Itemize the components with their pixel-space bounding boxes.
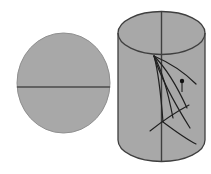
cylinder-group xyxy=(118,12,205,162)
geometry-figure-svg xyxy=(0,0,211,174)
cross-section-disk-group xyxy=(17,33,110,133)
figure-root xyxy=(0,0,211,174)
point-marker xyxy=(180,79,184,83)
cross-section-disk xyxy=(17,33,110,133)
